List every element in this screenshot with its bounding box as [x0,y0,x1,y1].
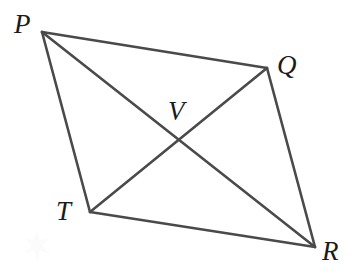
geometry-figure: P Q V T R [0,0,354,274]
vertex-label-t: T [56,198,71,225]
side-TP [42,32,90,212]
vertex-label-r: R [322,238,339,265]
side-RT [90,212,315,247]
vertex-label-p: P [14,11,31,38]
side-QR [267,68,315,247]
vertex-label-q: Q [277,52,297,79]
figure-canvas [0,0,354,274]
side-PQ [42,32,267,68]
vertex-label-v: V [168,98,185,125]
segment-group [42,32,315,247]
